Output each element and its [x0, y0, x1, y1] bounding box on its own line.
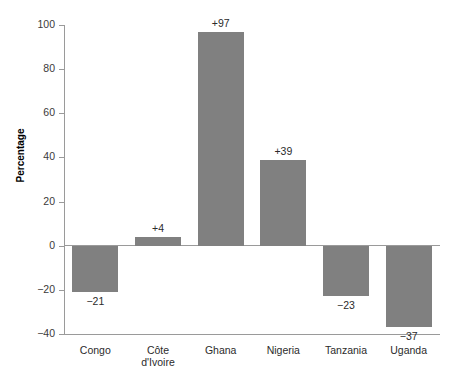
bar	[135, 237, 181, 246]
bar-chart: Percentage −40−20020406080100 −21+4+97+3…	[0, 0, 450, 383]
y-tick-label: 20	[0, 195, 55, 207]
y-tick-mark	[59, 25, 64, 26]
bar-value-label: +39	[253, 145, 313, 157]
y-tick-label: 80	[0, 62, 55, 74]
bar	[198, 32, 244, 246]
bar-value-label: +4	[128, 222, 188, 234]
bar-value-label: +97	[191, 17, 251, 29]
bar	[72, 246, 118, 292]
y-axis-spine	[64, 25, 65, 334]
category-label: Uganda	[369, 344, 449, 356]
y-tick-label: −20	[0, 283, 55, 295]
y-tick-label: −40	[0, 327, 55, 339]
bar	[260, 160, 306, 246]
y-tick-mark	[59, 202, 64, 203]
bar-value-label: −21	[65, 295, 125, 307]
y-tick-label: 0	[0, 239, 55, 251]
y-tick-label: 60	[0, 106, 55, 118]
bar-value-label: −37	[379, 330, 439, 342]
y-tick-mark	[59, 69, 64, 70]
y-tick-mark	[59, 113, 64, 114]
bar	[323, 246, 369, 297]
bar	[386, 246, 432, 328]
y-tick-mark	[59, 290, 64, 291]
bar-value-label: −23	[316, 299, 376, 311]
y-tick-label: 100	[0, 18, 55, 30]
y-tick-label: 40	[0, 150, 55, 162]
y-tick-mark	[59, 157, 64, 158]
zero-baseline	[64, 245, 440, 246]
